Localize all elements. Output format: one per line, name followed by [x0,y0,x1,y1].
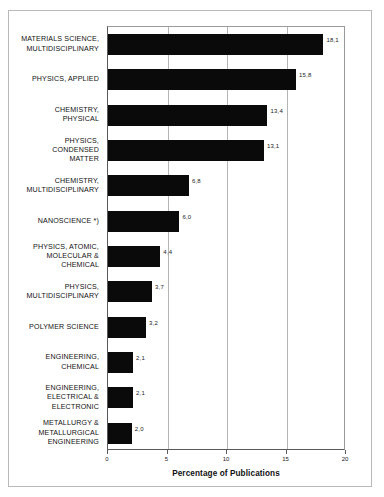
category-label: NANOSCIENCE *) [0,204,99,239]
bar-value-label: 6,8 [192,178,201,184]
bar-row: PHYSICS, ATOMIC, MOLECULAR & CHEMICAL4,4 [108,239,344,274]
category-label: POLYMER SCIENCE [0,310,99,345]
bar-value-label: 6,0 [182,214,191,220]
bar-chart: MATERIALS SCIENCE, MULTIDISCIPLINARY18,1… [0,0,384,497]
x-tick-mark [107,450,108,454]
bar-value-label: 15,8 [299,72,311,78]
bar-value-label: 4,4 [163,249,172,255]
category-label: ENGINEERING, CHEMICAL [0,345,99,380]
bar[interactable] [108,246,160,267]
bar-row: CHEMISTRY, PHYSICAL13,4 [108,98,344,133]
bar[interactable] [108,105,267,126]
bar[interactable] [108,211,179,232]
bar-value-label: 2,1 [136,390,145,396]
bar[interactable] [108,423,132,444]
x-axis: 05101520 [107,450,345,466]
x-tick-label: 15 [282,456,289,462]
category-label: PHYSICS, APPLIED [0,62,99,97]
bar[interactable] [108,175,189,196]
bar[interactable] [108,281,152,302]
category-label: CHEMISTRY, PHYSICAL [0,98,99,133]
bar-row: CHEMISTRY, MULTIDISCIPLINARY6,8 [108,168,344,203]
category-label: METALLURGY & METALLURGICAL ENGINEERING [0,416,99,451]
category-label: ENGINEERING, ELECTRICAL & ELECTRONIC [0,380,99,415]
bar[interactable] [108,69,296,90]
x-tick-label: 20 [342,456,349,462]
plot-area: MATERIALS SCIENCE, MULTIDISCIPLINARY18,1… [107,26,345,450]
x-tick-label: 10 [223,456,230,462]
category-label: PHYSICS, MULTIDISCIPLINARY [0,274,99,309]
bar-value-label: 13,1 [267,143,279,149]
bar-value-label: 2,0 [135,426,144,432]
bar-value-label: 3,7 [155,284,164,290]
bar-row: PHYSICS, MULTIDISCIPLINARY3,7 [108,274,344,309]
x-tick-mark [226,450,227,454]
category-label: CHEMISTRY, MULTIDISCIPLINARY [0,168,99,203]
bar-row: MATERIALS SCIENCE, MULTIDISCIPLINARY18,1 [108,27,344,62]
bar-value-label: 3,2 [149,320,158,326]
bar-row: POLYMER SCIENCE3,2 [108,310,344,345]
bar-row: ENGINEERING, ELECTRICAL & ELECTRONIC2,1 [108,380,344,415]
bar-row: PHYSICS, APPLIED15,8 [108,62,344,97]
bar[interactable] [108,140,264,161]
category-label: PHYSICS, CONDENSED MATTER [0,133,99,168]
x-axis-title: Percentage of Publications [107,469,345,478]
bar[interactable] [108,352,133,373]
bar-row: METALLURGY & METALLURGICAL ENGINEERING2,… [108,416,344,451]
bar[interactable] [108,387,133,408]
bar-row: NANOSCIENCE *)6,0 [108,204,344,239]
bar-value-label: 18,1 [326,37,338,43]
bar[interactable] [108,34,323,55]
bar-row: ENGINEERING, CHEMICAL2,1 [108,345,344,380]
bar[interactable] [108,317,146,338]
category-label: PHYSICS, ATOMIC, MOLECULAR & CHEMICAL [0,239,99,274]
bar-row: PHYSICS, CONDENSED MATTER13,1 [108,133,344,168]
category-label: MATERIALS SCIENCE, MULTIDISCIPLINARY [0,27,99,62]
x-tick-mark [286,450,287,454]
x-tick-mark [167,450,168,454]
bar-value-label: 2,1 [136,355,145,361]
x-tick-label: 0 [105,456,108,462]
x-tick-label: 5 [165,456,168,462]
x-tick-mark [345,450,346,454]
bar-value-label: 13,4 [270,108,282,114]
